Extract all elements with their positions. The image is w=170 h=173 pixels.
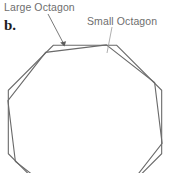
large-octagon-shape <box>8 45 161 173</box>
large-octagon-label: Large Octagon <box>4 1 75 13</box>
small-octagon-label: Small Octagon <box>87 15 157 27</box>
large-octagon-leader-line <box>48 14 64 44</box>
small-octagon-shape <box>8 45 162 173</box>
part-letter-label: b. <box>4 17 16 33</box>
octagon-figure: Large Octagon Small Octagon b. <box>0 0 170 173</box>
octagon-shapes-group <box>8 45 162 173</box>
